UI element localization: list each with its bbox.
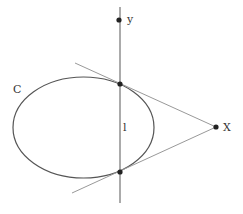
upper-tangent-line [75, 63, 216, 127]
lower-tangent-line [72, 127, 216, 193]
point-x [213, 124, 218, 129]
conic-polar-diagram: C y X l [0, 0, 243, 214]
upper-tangent-point [117, 81, 122, 86]
label-y: y [126, 13, 134, 26]
label-c: C [13, 83, 21, 96]
point-y [116, 17, 121, 22]
label-l: l [123, 121, 127, 134]
label-x: X [223, 121, 231, 134]
lower-tangent-point [117, 169, 122, 174]
curve-c [13, 77, 154, 178]
